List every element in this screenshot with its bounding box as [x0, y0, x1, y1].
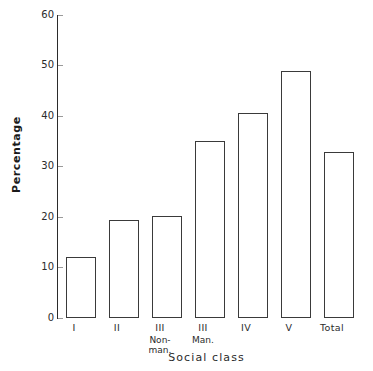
- y-tick-label-60: 60: [18, 10, 54, 20]
- bar-Total: [324, 152, 354, 318]
- y-axis-title: Percentage: [10, 109, 23, 201]
- bar-III-man: [195, 141, 225, 318]
- x-label-Total-main: Total: [304, 322, 360, 333]
- y-tick-label-20: 20: [18, 212, 54, 222]
- y-tick-label-10: 10: [18, 262, 54, 272]
- bar-V: [281, 71, 311, 318]
- y-tick-20: 20: [0, 212, 54, 222]
- y-tick-label-40: 40: [18, 111, 54, 121]
- y-tick-30: 30: [0, 161, 54, 171]
- bar-IV: [238, 113, 268, 318]
- y-tick-label-30: 30: [18, 161, 54, 171]
- y-tick-40: 40: [0, 111, 54, 121]
- x-label-III-man-sub: Man.: [175, 335, 231, 345]
- x-label-Total: Total: [304, 322, 360, 333]
- bar-III-non-man: [152, 216, 182, 318]
- plot-area: [57, 15, 373, 318]
- x-axis-title: Social class: [0, 351, 373, 364]
- y-tick-10: 10: [0, 262, 54, 272]
- bar-I: [66, 257, 96, 318]
- bar-II: [109, 220, 139, 319]
- bar-chart: Percentage 0 10 20 30 40 50 60 I: [0, 0, 373, 371]
- y-tick-60: 60: [0, 10, 54, 20]
- y-tick-mark-0: [58, 318, 63, 319]
- y-tick-label-50: 50: [18, 60, 54, 70]
- y-tick-50: 50: [0, 60, 54, 70]
